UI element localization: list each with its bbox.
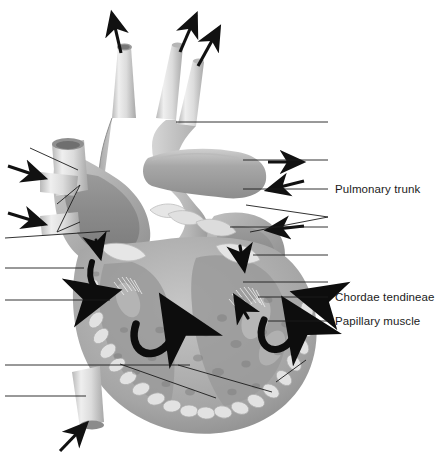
arrow-svc-inflow	[8, 166, 44, 178]
label-papillary-muscle: Papillary muscle	[335, 315, 420, 327]
arrow-left-carotid	[180, 15, 196, 52]
pulmonary-vein-lower	[40, 212, 80, 236]
pulmonary-vein-upper	[40, 172, 78, 196]
label-chordae-tendineae: Chordae tendineae	[335, 291, 435, 303]
arrow-left-subclavian	[198, 28, 219, 66]
arrow-ivc-inflow	[8, 213, 44, 224]
label-pulmonary-trunk: Pulmonary trunk	[335, 183, 420, 195]
arrow-inferior-inflow	[60, 424, 86, 451]
heart-body	[40, 42, 317, 433]
arrow-brachiocephalic	[112, 14, 121, 53]
pulmonary-trunk-shape	[143, 149, 266, 199]
great-vessels	[112, 42, 204, 126]
inferior-vena-cava	[72, 366, 104, 428]
